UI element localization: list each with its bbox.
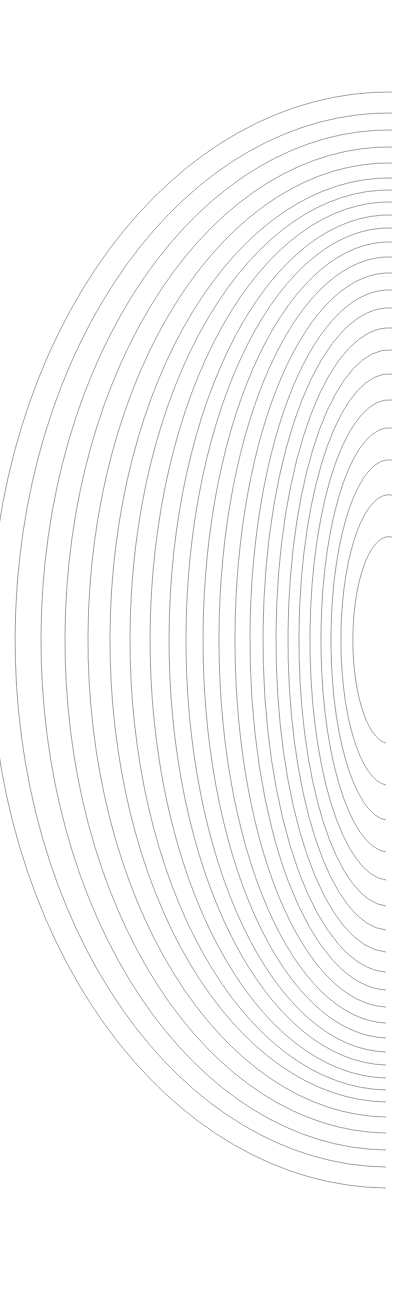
arc-line — [65, 147, 392, 1133]
arc-line — [219, 257, 392, 1023]
arc-line — [310, 400, 392, 880]
arc-line — [0, 92, 392, 1188]
arc-line — [203, 242, 392, 1038]
arc-line — [331, 460, 392, 820]
arc-line — [263, 308, 392, 972]
arc-line — [15, 113, 392, 1167]
arc-line — [353, 537, 392, 743]
arc-line — [169, 215, 392, 1065]
arc-line — [299, 374, 392, 906]
arc-line — [276, 328, 392, 952]
arc-line — [41, 130, 392, 1150]
concentric-arcs-artwork — [0, 0, 397, 1296]
arc-line — [110, 178, 392, 1102]
arc-line — [88, 163, 392, 1117]
arc-line — [341, 495, 392, 785]
arc-line — [235, 273, 392, 1007]
arc-line — [186, 228, 392, 1052]
